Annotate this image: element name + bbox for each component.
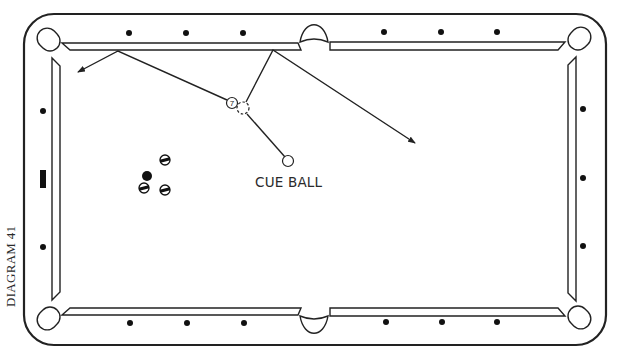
diamond-bottom	[184, 320, 190, 326]
striped-ball	[160, 185, 170, 195]
ball-number: 7	[230, 99, 235, 108]
pocket-bottom-right	[564, 302, 595, 333]
cushion-left	[52, 58, 60, 300]
diamond-bottom	[241, 320, 247, 326]
cushion-top-right	[330, 42, 565, 50]
cue-ball	[283, 156, 294, 167]
pocket-top-right	[564, 23, 595, 54]
diamond-top	[126, 30, 132, 36]
solid-ball	[142, 171, 152, 181]
diamond-right	[580, 175, 586, 181]
diamond-left	[40, 244, 46, 250]
diamond-top	[438, 29, 444, 35]
cushion-top-left	[62, 43, 301, 50]
diamond-top	[240, 30, 246, 36]
ghost-ball	[237, 102, 249, 114]
diamond-bottom	[494, 319, 500, 325]
diamond-bottom	[127, 320, 133, 326]
diamond-right	[580, 243, 586, 249]
object-ball-7: 7	[227, 98, 238, 109]
striped-ball	[160, 155, 170, 165]
diamond-top	[183, 30, 189, 36]
diamond-top	[381, 29, 387, 35]
cue-ball-label: CUE BALL	[255, 174, 322, 190]
ghost-to-rail-path	[246, 50, 415, 143]
pocket-top-left	[33, 24, 64, 55]
pocket-side-top	[300, 25, 328, 42]
cue-ball-path-to-ghost	[247, 114, 285, 157]
pocket-side-bottom	[300, 316, 328, 333]
diamond-bottom	[439, 319, 445, 325]
object-ball-path	[78, 51, 227, 100]
head-spot-marker	[40, 170, 46, 188]
striped-ball	[139, 183, 149, 193]
diamond-right	[580, 106, 586, 112]
diamond-top	[494, 29, 500, 35]
diagram-caption: DIAGRAM 41	[3, 227, 19, 307]
cushion-bottom-left	[62, 308, 301, 315]
pocket-bottom-left	[33, 303, 64, 334]
cushion-bottom-right	[330, 308, 565, 316]
diamond-left	[40, 108, 46, 114]
diamond-bottom	[383, 319, 389, 325]
cushion-right	[568, 57, 576, 301]
